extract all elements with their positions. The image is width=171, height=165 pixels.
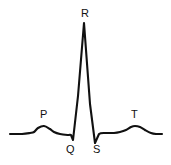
wave-label-p: P: [40, 109, 47, 120]
figure-background: [0, 0, 171, 165]
ecg-waveform-diagram: P Q R S T: [0, 0, 171, 165]
ecg-trace-canvas: [0, 0, 171, 165]
wave-label-r: R: [81, 8, 89, 19]
wave-label-s: S: [93, 144, 100, 155]
wave-label-t: T: [131, 109, 138, 120]
wave-label-q: Q: [66, 144, 75, 155]
